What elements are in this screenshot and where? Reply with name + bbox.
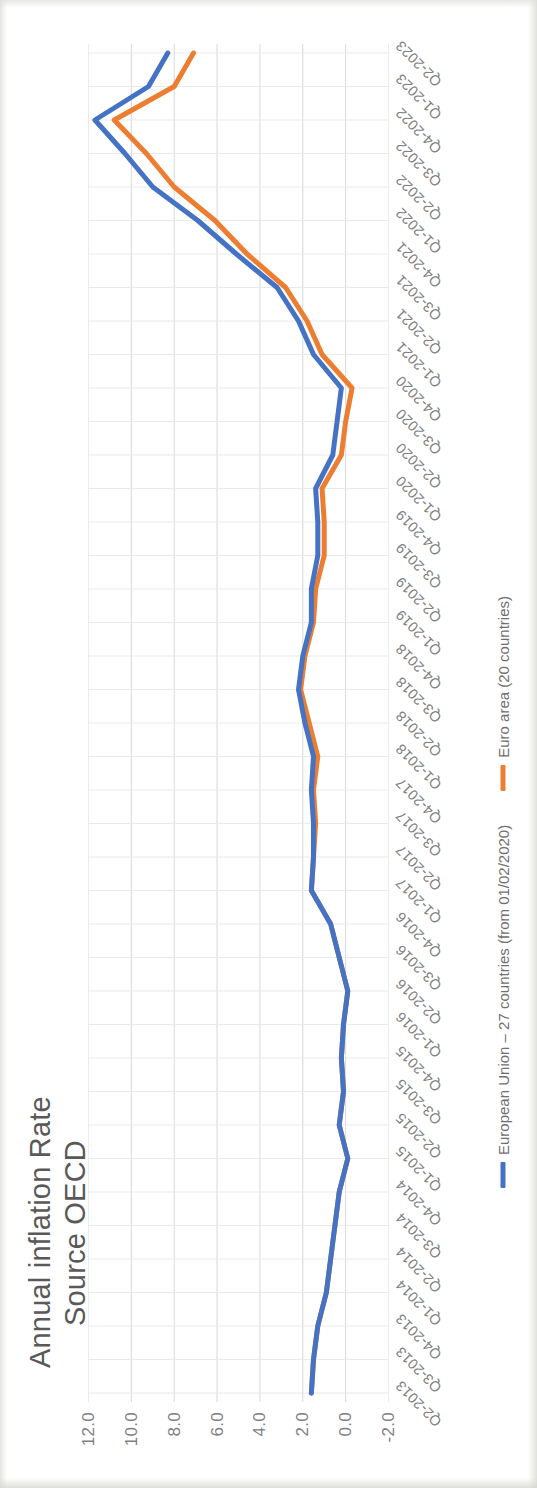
legend-color-swatch bbox=[500, 1162, 505, 1188]
chart-legend: European Union – 27 countries (from 01/0… bbox=[495, 596, 510, 1188]
y-axis-tick-label: 12.0 bbox=[78, 1412, 98, 1446]
chart-subtitle: Source OECD bbox=[57, 848, 92, 1326]
y-axis-tick-label: -2.0 bbox=[378, 1412, 398, 1443]
legend-color-swatch bbox=[500, 765, 505, 791]
y-axis-tick-label: 6.0 bbox=[207, 1412, 227, 1437]
y-axis-tick-label: 4.0 bbox=[249, 1412, 269, 1437]
legend-item-eu27[interactable]: European Union – 27 countries (from 01/0… bbox=[495, 825, 510, 1188]
rotated-chart-canvas: Annual inflation Rate Source OECD -2.00.… bbox=[0, 0, 537, 1488]
y-axis-tick-label: 8.0 bbox=[164, 1412, 184, 1437]
legend-item-euro20[interactable]: Euro area (20 countries) bbox=[495, 596, 510, 791]
chart-title: Annual inflation Rate bbox=[22, 848, 57, 1368]
y-axis-tick-label: 2.0 bbox=[292, 1412, 312, 1437]
chart: Annual inflation Rate Source OECD -2.00.… bbox=[0, 0, 537, 1488]
legend-item-label: European Union – 27 countries (from 01/0… bbox=[495, 825, 510, 1155]
y-axis-tick-label: 0.0 bbox=[335, 1412, 355, 1437]
legend-item-label: Euro area (20 countries) bbox=[495, 596, 510, 758]
line-chart-svg bbox=[88, 44, 388, 1402]
scanned-page: Annual inflation Rate Source OECD -2.00.… bbox=[0, 0, 537, 1488]
chart-title-block: Annual inflation Rate Source OECD bbox=[22, 848, 93, 1368]
y-axis-tick-label: 10.0 bbox=[121, 1412, 141, 1446]
y-axis-tick-labels: -2.00.02.04.06.08.010.012.0 bbox=[88, 1406, 388, 1478]
plot-area bbox=[88, 44, 388, 1402]
x-axis-tick-labels: Q2-2013Q3-2013Q4-2013Q1-2014Q2-2014Q3-20… bbox=[392, 44, 502, 1402]
